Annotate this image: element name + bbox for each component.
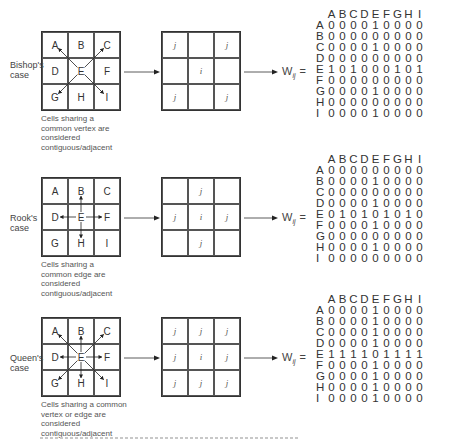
- weight-matrix: ABCDEFGHIA000010000B000010000C000010000D…: [316, 294, 425, 404]
- weight-subscript: ij: [292, 358, 295, 365]
- matrix-cell: 0: [403, 393, 414, 404]
- pattern-grid: jjjjijjjj: [161, 317, 241, 397]
- matrix-row: I000000000: [316, 253, 425, 264]
- grid-cell-e: E: [68, 204, 94, 230]
- grid-cell-h: H: [68, 230, 94, 256]
- matrix-row: I000010000: [316, 393, 425, 404]
- matrix-cell: 0: [337, 253, 348, 264]
- equals-sign: =: [300, 211, 306, 223]
- matrix-cell: 0: [414, 108, 425, 119]
- empty-cell: [214, 178, 240, 204]
- letter-grid: ABCDEFGHI: [41, 177, 121, 257]
- neighbor-cell: j: [214, 84, 240, 110]
- matrix-cell: 0: [414, 253, 425, 264]
- empty-cell: [188, 84, 214, 110]
- weight-subscript: ij: [292, 218, 295, 225]
- case-label: Rook's case: [10, 213, 44, 233]
- matrix-row: I000010000: [316, 108, 425, 119]
- neighbor-cell: j: [188, 318, 214, 344]
- pattern-grid: jjijj: [161, 31, 241, 111]
- truncated-caption-line: [40, 437, 300, 439]
- grid-cell-f: F: [94, 204, 120, 230]
- neighbor-cell: j: [214, 318, 240, 344]
- grid-cell-i: I: [94, 84, 120, 110]
- weight-matrix-label: Wij=: [282, 211, 306, 225]
- neighbor-cell: j: [162, 32, 188, 58]
- rook-case-section: Rook's caseABCDEFGHICells sharing a comm…: [0, 146, 454, 291]
- case-label: Queen's case: [10, 353, 44, 373]
- weight-matrix-label: Wij=: [282, 65, 306, 79]
- pattern-grid: jjijj: [161, 177, 241, 257]
- grid-cell-e: E: [68, 344, 94, 370]
- matrix-cell: 0: [381, 253, 392, 264]
- grid-cell-f: F: [94, 344, 120, 370]
- weight-symbol: W: [282, 351, 292, 363]
- equals-sign: =: [300, 65, 306, 77]
- grid-cell-h: H: [68, 370, 94, 396]
- matrix-cell: 0: [359, 253, 370, 264]
- matrix-cell: 0: [348, 393, 359, 404]
- weight-matrix-label: Wij=: [282, 351, 306, 365]
- matrix-cell: 0: [359, 393, 370, 404]
- weight-symbol: W: [282, 211, 292, 223]
- empty-cell: [162, 230, 188, 256]
- grid-cell-e: E: [68, 58, 94, 84]
- matrix-cell: 0: [392, 108, 403, 119]
- matrix-cell: 0: [392, 253, 403, 264]
- neighbor-cell: j: [214, 204, 240, 230]
- grid-cell-b: B: [68, 32, 94, 58]
- neighbor-cell: j: [162, 84, 188, 110]
- grid-cell-d: D: [42, 344, 68, 370]
- matrix-row-label: I: [316, 393, 326, 404]
- weight-matrix: ABCDEFGHIA000000000B000010000C000000000D…: [316, 154, 425, 264]
- grid-cell-h: H: [68, 84, 94, 110]
- neighbor-cell: j: [188, 178, 214, 204]
- neighbor-cell: j: [162, 204, 188, 230]
- matrix-cell: 0: [359, 108, 370, 119]
- adjacency-caption: Cells sharing a common vertex or edge ar…: [41, 400, 141, 438]
- letter-grid: ABCDEFGHI: [41, 317, 121, 397]
- neighbor-cell: j: [214, 344, 240, 370]
- empty-cell: [188, 32, 214, 58]
- grid-cell-g: G: [42, 230, 68, 256]
- truncated-figure-caption: [40, 434, 340, 441]
- matrix-cell: 0: [326, 393, 337, 404]
- focal-cell: i: [188, 58, 214, 84]
- right-arrow-icon: [124, 69, 160, 75]
- grid-cell-f: F: [94, 58, 120, 84]
- right-arrow-icon: [124, 215, 160, 221]
- matrix-cell: 1: [370, 108, 381, 119]
- grid-cell-b: B: [68, 178, 94, 204]
- matrix-cell: 0: [381, 393, 392, 404]
- matrix-row-label: I: [316, 108, 326, 119]
- grid-cell-a: A: [42, 318, 68, 344]
- right-arrow-icon: [124, 355, 160, 361]
- bishop-case-section: Bishop's caseABCDEFGHICells sharing a co…: [0, 0, 454, 145]
- matrix-cell: 1: [370, 393, 381, 404]
- grid-cell-c: C: [94, 178, 120, 204]
- matrix-cell: 0: [403, 108, 414, 119]
- neighbor-cell: j: [188, 370, 214, 396]
- right-arrow-icon: [244, 69, 278, 75]
- matrix-cell: 0: [414, 393, 425, 404]
- empty-cell: [214, 230, 240, 256]
- grid-cell-a: A: [42, 32, 68, 58]
- focal-cell: i: [188, 204, 214, 230]
- grid-cell-d: D: [42, 204, 68, 230]
- grid-cell-d: D: [42, 58, 68, 84]
- grid-cell-c: C: [94, 32, 120, 58]
- matrix-cell: 0: [348, 108, 359, 119]
- grid-cell-a: A: [42, 178, 68, 204]
- grid-cell-i: I: [94, 230, 120, 256]
- matrix-cell: 0: [348, 253, 359, 264]
- matrix-cell: 0: [381, 108, 392, 119]
- equals-sign: =: [300, 351, 306, 363]
- empty-cell: [162, 178, 188, 204]
- grid-cell-c: C: [94, 318, 120, 344]
- grid-cell-g: G: [42, 370, 68, 396]
- letter-grid: ABCDEFGHI: [41, 31, 121, 111]
- matrix-cell: 0: [392, 393, 403, 404]
- weight-matrix: ABCDEFGHIA000010000B000000000C000010000D…: [316, 9, 425, 119]
- right-arrow-icon: [244, 355, 278, 361]
- matrix-cell: 0: [370, 253, 381, 264]
